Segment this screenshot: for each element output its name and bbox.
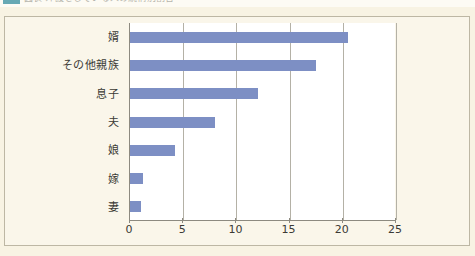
scanned-page: 婿その他親族息子夫娘嫁妻 0510152025 <box>0 7 475 256</box>
value-axis-labels: 0510152025 <box>129 223 395 243</box>
bar-row <box>130 60 395 71</box>
bar <box>130 201 141 212</box>
bar <box>130 117 215 128</box>
category-axis-labels: 婿その他親族息子夫娘嫁妻 <box>5 23 125 221</box>
value-axis-tick-label: 10 <box>228 223 242 236</box>
bar-row <box>130 201 395 212</box>
bar <box>130 145 175 156</box>
category-axis-tick-label: その他親族 <box>62 60 120 71</box>
value-axis-tick-label: 0 <box>126 223 133 236</box>
value-axis-tick-label: 25 <box>388 223 402 236</box>
bar-row <box>130 117 395 128</box>
value-axis-tick-label: 5 <box>179 223 186 236</box>
bar-row <box>130 88 395 99</box>
bars-layer <box>130 23 395 220</box>
category-axis-tick-label: 嫁 <box>108 173 120 184</box>
value-axis-tick-label: 20 <box>335 223 349 236</box>
chart-container: 婿その他親族息子夫娘嫁妻 0510152025 <box>5 17 469 245</box>
gridline <box>396 23 397 220</box>
legend-color-swatch-icon <box>3 0 20 4</box>
bar <box>130 173 143 184</box>
value-axis-tick-label: 15 <box>282 223 296 236</box>
caption-label: 図表 介護をしている人の続柄別割合 <box>24 0 174 4</box>
bar <box>130 88 258 99</box>
bar-row <box>130 173 395 184</box>
category-axis-tick-label: 息子 <box>96 88 119 99</box>
chart-frame: 婿その他親族息子夫娘嫁妻 0510152025 <box>4 16 470 246</box>
bar <box>130 32 348 43</box>
category-axis-tick-label: 娘 <box>108 145 120 156</box>
category-axis-tick-label: 妻 <box>108 201 120 212</box>
category-axis-tick-label: 夫 <box>108 117 120 128</box>
bar <box>130 60 316 71</box>
bar-row <box>130 145 395 156</box>
bar-row <box>130 32 395 43</box>
caption-strip: 図表 介護をしている人の続柄別割合 <box>0 0 475 7</box>
plot-area <box>129 23 395 221</box>
category-axis-tick-label: 婿 <box>108 32 120 43</box>
